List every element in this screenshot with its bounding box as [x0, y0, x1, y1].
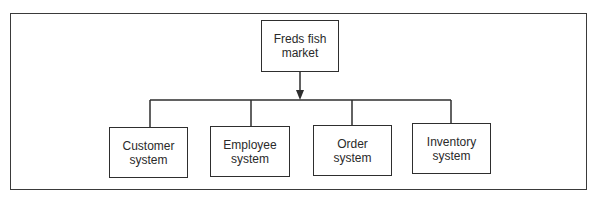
node-label-line2: system — [122, 153, 174, 167]
node-root-line1: Freds fish — [274, 32, 327, 46]
node-employee-system: Employee system — [210, 126, 290, 177]
node-root-line2: market — [274, 46, 327, 60]
node-label-line1: Inventory — [427, 135, 476, 149]
arrow-down-icon — [296, 90, 304, 100]
node-label-line1: Customer — [122, 139, 174, 153]
node-label-line1: Order — [333, 137, 371, 151]
node-label-line2: system — [333, 151, 371, 165]
node-order-system: Order system — [313, 125, 392, 176]
node-root: Freds fish market — [261, 20, 339, 72]
node-customer-system: Customer system — [109, 127, 188, 178]
node-label-line1: Employee — [223, 138, 276, 152]
node-label-line2: system — [223, 152, 276, 166]
node-inventory-system: Inventory system — [412, 123, 491, 174]
node-label-line2: system — [427, 149, 476, 163]
